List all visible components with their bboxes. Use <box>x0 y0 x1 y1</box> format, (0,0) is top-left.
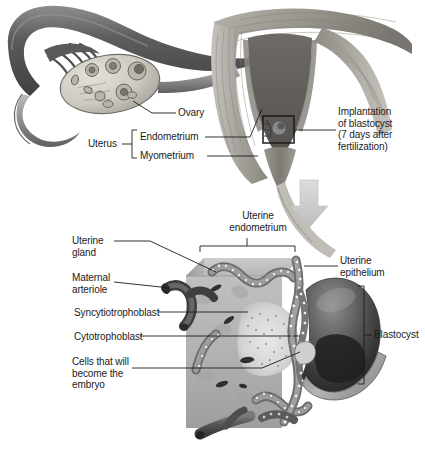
label-maternal-arteriole: Maternal arteriole <box>72 272 110 295</box>
label-endometrium: Endometrium <box>140 131 198 143</box>
label-syncytiotrophoblast: Syncytiotrophoblast <box>74 307 159 319</box>
label-blastocyst: Blastocyst <box>374 329 419 341</box>
label-uterine-epithelium: Uterine epithelium <box>340 255 385 278</box>
label-uterus: Uterus <box>88 138 117 150</box>
label-uterine-endometrium: Uterine endometrium <box>216 210 300 233</box>
endometrium-bracket <box>200 246 295 252</box>
label-ovary: Ovary <box>178 107 204 119</box>
label-uterine-gland: Uterine gland <box>72 235 104 258</box>
implantation-figure: Ovary Uterus Endometrium Myometrium Impl… <box>0 0 425 452</box>
label-cells-that-become-embryo: Cells that will become the embryo <box>72 356 129 391</box>
leader-maternal-arteriole <box>114 282 170 288</box>
uterus-bracket <box>132 130 137 158</box>
label-cytotrophoblast: Cytotrophoblast <box>74 331 143 343</box>
label-implantation-of-blastocyst: Implantation of blastocyst (7 days after… <box>338 106 392 152</box>
label-myometrium: Myometrium <box>140 150 194 162</box>
uterine-cavity <box>248 34 312 159</box>
figure-artwork <box>0 0 425 452</box>
